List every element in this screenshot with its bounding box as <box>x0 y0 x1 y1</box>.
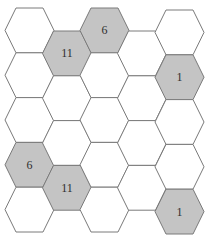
hexagon-shape <box>155 100 204 145</box>
hexagon-shape <box>155 10 204 55</box>
hex-cell-empty <box>155 100 204 145</box>
hex-number-label: 11 <box>61 181 73 195</box>
hex-number-label: 6 <box>27 158 33 172</box>
hex-number-label: 1 <box>177 70 183 84</box>
hex-cell-empty <box>155 144 204 189</box>
hex-cell-numbered: 1 <box>155 55 204 100</box>
hex-number-label: 11 <box>61 46 73 60</box>
hex-cell-empty <box>155 10 204 55</box>
hex-grid: 61111611 <box>0 0 213 240</box>
hex-number-label: 1 <box>177 205 183 219</box>
hex-number-label: 6 <box>102 23 108 37</box>
hexagon-shape <box>155 144 204 189</box>
hex-cell-numbered: 1 <box>155 189 204 234</box>
